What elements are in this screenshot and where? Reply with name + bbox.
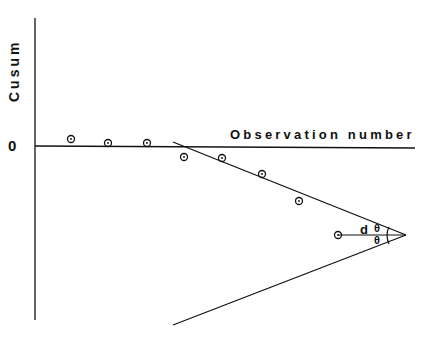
lead-distance-label: d <box>360 222 368 237</box>
x-axis-label: Observation number <box>230 127 415 142</box>
origin-label: 0 <box>8 137 16 154</box>
vmask-upper-arm <box>173 142 406 235</box>
x-axis-zero-line <box>35 146 415 148</box>
angle-label-upper: θ <box>374 222 380 234</box>
angle-label-lower: θ <box>374 234 380 246</box>
vmask-diagram <box>0 0 433 345</box>
vmask-lower-arm <box>173 235 406 325</box>
y-axis-label: Cusum <box>6 40 22 102</box>
data-points <box>68 136 342 239</box>
